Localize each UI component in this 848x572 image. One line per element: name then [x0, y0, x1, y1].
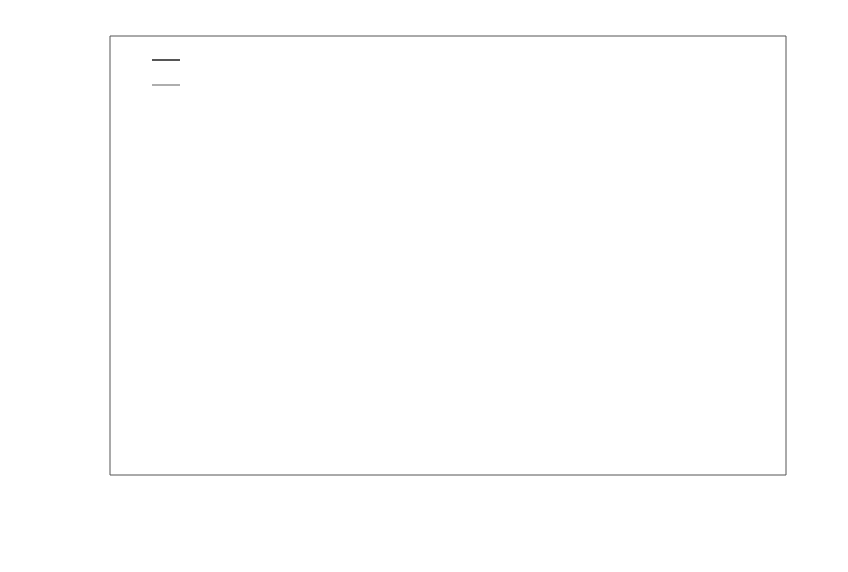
line-chart: [0, 0, 848, 572]
chart-container: [0, 0, 848, 572]
legend: [152, 60, 180, 85]
